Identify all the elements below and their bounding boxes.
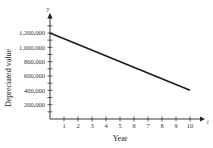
y-tick-label: 1,200,000	[19, 29, 45, 36]
y-tick-label: 200,000	[24, 101, 45, 108]
depreciation-line	[50, 33, 190, 90]
y-tick-label: 400,000	[24, 87, 45, 94]
data-series	[50, 33, 190, 90]
x-tick-label: 10	[187, 122, 194, 129]
x-tick-label: 2	[76, 122, 79, 129]
x-axis-variable: t	[207, 119, 209, 125]
y-axis-title: Depreciated value	[4, 49, 13, 107]
y-tick-label: 600,000	[24, 72, 45, 79]
x-tick-label: 6	[132, 122, 136, 129]
x-tick-label: 8	[160, 122, 163, 129]
y-tick-label: 800,000	[24, 58, 45, 65]
ticks: 12345678910200,000400,000600,000800,0001…	[19, 26, 193, 129]
x-tick-label: 1	[62, 122, 65, 129]
x-tick-label: 5	[118, 122, 121, 129]
x-tick-label: 7	[146, 122, 150, 129]
chart-canvas: 12345678910200,000400,000600,000800,0001…	[0, 0, 213, 148]
x-tick-label: 3	[90, 122, 93, 129]
x-tick-label: 9	[174, 122, 177, 129]
axes	[50, 14, 204, 119]
x-axis-title: Year	[113, 134, 128, 143]
y-tick-label: 1,000,000	[19, 44, 45, 51]
y-axis-variable: y	[46, 6, 50, 12]
x-tick-label: 4	[104, 122, 108, 129]
